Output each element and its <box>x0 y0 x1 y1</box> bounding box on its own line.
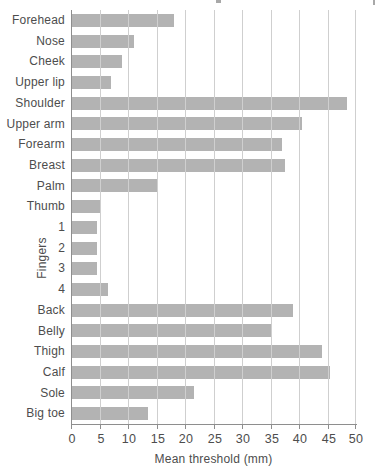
category-label: Calf <box>0 362 65 383</box>
x-tick-label: 5 <box>97 432 104 446</box>
cropped-text-artifact <box>373 0 375 5</box>
x-axis-title: Mean threshold (mm) <box>71 452 356 466</box>
bar <box>71 97 347 110</box>
category-label: Big toe <box>0 403 65 424</box>
plot-area <box>71 10 356 424</box>
category-label: Shoulder <box>0 93 65 114</box>
bar <box>71 262 97 275</box>
x-tick <box>157 425 158 429</box>
x-tick-label: 35 <box>265 432 279 446</box>
x-tick <box>271 425 272 429</box>
x-tick <box>299 425 300 429</box>
gridline <box>299 10 300 424</box>
gridline <box>128 10 129 424</box>
bar <box>71 14 174 27</box>
x-tick <box>71 425 72 429</box>
x-tick-label: 0 <box>68 432 75 446</box>
category-label: Thumb <box>0 196 65 217</box>
gridline <box>355 10 356 424</box>
category-label: 2 <box>0 238 65 259</box>
bar <box>71 200 100 213</box>
x-axis-ticks <box>71 425 356 430</box>
bar-chart: ForeheadNoseCheekUpper lipShoulderUpper … <box>0 0 378 471</box>
x-tick-label: 30 <box>236 432 250 446</box>
category-label: Upper lip <box>0 72 65 93</box>
bar <box>71 386 194 399</box>
category-label: Back <box>0 300 65 321</box>
bar <box>71 117 302 130</box>
category-label: 4 <box>0 279 65 300</box>
category-label: 1 <box>0 217 65 238</box>
gridline <box>328 10 329 424</box>
gridline <box>157 10 158 424</box>
x-axis-line <box>71 424 357 425</box>
bar <box>71 159 285 172</box>
x-tick-label: 10 <box>122 432 136 446</box>
x-tick <box>100 425 101 429</box>
bar <box>71 35 134 48</box>
x-tick-label: 20 <box>179 432 193 446</box>
gridline <box>271 10 272 424</box>
bar <box>71 366 330 379</box>
category-label: Upper arm <box>0 114 65 135</box>
x-tick <box>242 425 243 429</box>
category-label: Cheek <box>0 51 65 72</box>
bar <box>71 345 322 358</box>
bar <box>71 304 293 317</box>
gridline <box>242 10 243 424</box>
fingers-group-label: Fingers <box>35 237 49 278</box>
category-label: Sole <box>0 383 65 404</box>
category-label: Forehead <box>0 10 65 31</box>
x-axis-tick-labels: 05101520253035404550 <box>71 432 356 447</box>
x-tick-label: 40 <box>293 432 307 446</box>
gridline <box>100 10 101 424</box>
category-label: Nose <box>0 31 65 52</box>
bar <box>71 221 97 234</box>
bar <box>71 55 122 68</box>
category-label: 3 <box>0 258 65 279</box>
cropped-text-artifact <box>216 0 221 3</box>
category-label: Forearm <box>0 134 65 155</box>
x-tick-label: 50 <box>349 432 363 446</box>
category-label: Thigh <box>0 341 65 362</box>
gridline <box>214 10 215 424</box>
bar <box>71 138 282 151</box>
x-tick-label: 45 <box>322 432 336 446</box>
y-axis-line <box>71 10 72 424</box>
bar <box>71 76 111 89</box>
category-label: Palm <box>0 176 65 197</box>
bar <box>71 407 148 420</box>
x-tick <box>328 425 329 429</box>
bar <box>71 242 97 255</box>
x-tick-label: 25 <box>208 432 222 446</box>
category-label: Belly <box>0 321 65 342</box>
bar <box>71 283 108 296</box>
category-label: Breast <box>0 155 65 176</box>
x-tick <box>128 425 129 429</box>
x-tick-label: 15 <box>151 432 165 446</box>
bar <box>71 179 157 192</box>
x-tick <box>355 425 356 429</box>
x-tick <box>214 425 215 429</box>
category-labels: ForeheadNoseCheekUpper lipShoulderUpper … <box>0 10 65 424</box>
gridline <box>185 10 186 424</box>
x-tick <box>185 425 186 429</box>
